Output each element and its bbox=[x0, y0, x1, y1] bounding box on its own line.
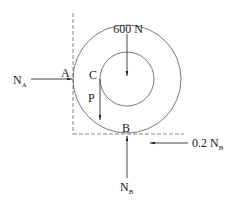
normal-a-subscript: A bbox=[22, 81, 27, 89]
point-c-label: C bbox=[89, 68, 97, 82]
weight-label: 600 N bbox=[113, 22, 143, 36]
free-body-diagram: 600 N P A C B NA NB 0.2 NB bbox=[0, 0, 242, 205]
point-a-label: A bbox=[61, 66, 70, 80]
point-b-label: B bbox=[122, 121, 130, 135]
friction-label: 0.2 NB bbox=[192, 136, 224, 152]
normal-b-label: NB bbox=[120, 180, 134, 196]
friction-subscript: B bbox=[219, 144, 224, 152]
normal-b-subscript: B bbox=[129, 188, 134, 196]
normal-a-label: NA bbox=[13, 73, 27, 89]
p-force-label: P bbox=[88, 91, 95, 105]
